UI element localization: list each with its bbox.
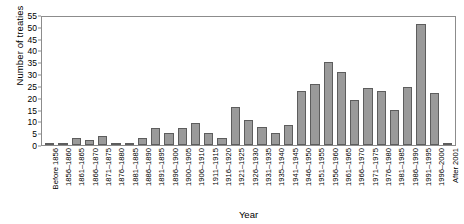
- plot-area: [41, 16, 456, 146]
- bar-slot: [229, 17, 242, 145]
- bar-slot: [388, 17, 401, 145]
- x-axis-tick-slot: 1935–1940: [269, 148, 282, 210]
- bar: [217, 138, 226, 145]
- x-axis-tick-slot: 1891–1895: [149, 148, 162, 210]
- y-axis-tick-label: 25: [28, 83, 37, 92]
- bar: [284, 125, 293, 145]
- bar: [430, 93, 439, 145]
- y-axis-tick-label: 45: [28, 35, 37, 44]
- bar-slot: [335, 17, 348, 145]
- x-axis-ticks: Before 18561856–18601861–18651866–187018…: [41, 148, 456, 210]
- bar-slot: [322, 17, 335, 145]
- y-axis-ticks: 0510152025303540455055: [0, 0, 41, 147]
- bar: [178, 128, 187, 145]
- bar: [257, 127, 266, 145]
- x-axis-tick-slot: After 2001: [442, 148, 455, 210]
- bar: [416, 24, 425, 145]
- y-axis-tick-label: 40: [28, 47, 37, 56]
- bar: [85, 140, 94, 145]
- bar-slot: [255, 17, 268, 145]
- bar-slot: [70, 17, 83, 145]
- bar: [271, 133, 280, 145]
- bar: [138, 138, 147, 145]
- bar-slot: [189, 17, 202, 145]
- y-axis-tick-label: 35: [28, 59, 37, 68]
- bar-slot: [282, 17, 295, 145]
- x-axis-tick-slot: 1900–1905: [175, 148, 188, 210]
- y-axis-tick-label: 0: [32, 142, 37, 151]
- x-axis-tick-slot: 1871–1875: [95, 148, 108, 210]
- bar-slot: [83, 17, 96, 145]
- bar: [324, 62, 333, 145]
- bar-slot: [308, 17, 321, 145]
- x-axis-tick-slot: 1976–1980: [375, 148, 388, 210]
- bar: [390, 110, 399, 145]
- x-axis-tick-slot: 1951–1955: [309, 148, 322, 210]
- bar-slot: [428, 17, 441, 145]
- bar: [377, 91, 386, 145]
- x-axis-tick-slot: 1906–1910: [189, 148, 202, 210]
- x-axis-tick-slot: 1911–1915: [202, 148, 215, 210]
- x-axis-tick-slot: 1886–1890: [135, 148, 148, 210]
- bar-slot: [348, 17, 361, 145]
- x-axis-tick-slot: 1876–1880: [109, 148, 122, 210]
- bar: [191, 123, 200, 145]
- bar: [297, 91, 306, 145]
- bar-slot: [136, 17, 149, 145]
- x-axis-title: Year: [41, 209, 456, 220]
- x-axis-tick-slot: 1971–1975: [362, 148, 375, 210]
- bar-slot: [56, 17, 69, 145]
- bar: [58, 143, 67, 145]
- y-axis-tick-label: 30: [28, 71, 37, 80]
- bar: [204, 133, 213, 145]
- bar: [151, 128, 160, 145]
- x-axis-tick-slot: 1941–1945: [282, 148, 295, 210]
- bar-slot: [202, 17, 215, 145]
- bar-slot: [176, 17, 189, 145]
- bar: [164, 133, 173, 145]
- bar: [111, 143, 120, 145]
- bar: [363, 88, 372, 145]
- bar-slot: [123, 17, 136, 145]
- x-axis-tick-slot: 1856–1860: [55, 148, 68, 210]
- bar-slot: [361, 17, 374, 145]
- bar: [125, 143, 134, 145]
- x-axis-tick-label: After 2001: [452, 148, 460, 183]
- x-axis-tick-slot: 1996–2000: [429, 148, 442, 210]
- x-axis-tick-slot: 1966–1970: [349, 148, 362, 210]
- y-axis-tick-label: 20: [28, 94, 37, 103]
- x-axis-tick-slot: 1956–1960: [322, 148, 335, 210]
- bar: [72, 138, 81, 145]
- bar-slot: [43, 17, 56, 145]
- x-axis-tick-slot: 1921–1925: [229, 148, 242, 210]
- bar-slot: [149, 17, 162, 145]
- bar: [443, 143, 452, 145]
- bar: [231, 107, 240, 145]
- x-axis-tick-slot: 1926–1930: [242, 148, 255, 210]
- y-axis-tick-label: 10: [28, 118, 37, 127]
- x-axis-tick-slot: 1961–1965: [335, 148, 348, 210]
- bar-slot: [269, 17, 282, 145]
- bar: [310, 84, 319, 145]
- bar-series: [42, 17, 455, 145]
- bar-slot: [441, 17, 454, 145]
- y-axis-tick-label: 15: [28, 106, 37, 115]
- x-axis-tick-slot: 1916–1920: [215, 148, 228, 210]
- x-axis-tick-slot: 1896–1900: [162, 148, 175, 210]
- y-axis-tick-label: 50: [28, 24, 37, 33]
- bar: [403, 87, 412, 145]
- x-axis-tick-slot: 1946–1950: [295, 148, 308, 210]
- bar-slot: [242, 17, 255, 145]
- bar-chart: Number of treaties 051015202530354045505…: [0, 0, 464, 224]
- bar-slot: [295, 17, 308, 145]
- bar-slot: [96, 17, 109, 145]
- bar-slot: [215, 17, 228, 145]
- bar: [337, 72, 346, 145]
- bar: [45, 143, 54, 145]
- x-axis-tick-slot: Before 1856: [42, 148, 55, 210]
- x-axis-tick-slot: 1931–1935: [255, 148, 268, 210]
- x-axis-tick-slot: 1986–1990: [402, 148, 415, 210]
- bar-slot: [162, 17, 175, 145]
- x-axis-tick-slot: 1881–1885: [122, 148, 135, 210]
- x-axis-tick-slot: 1866–1870: [82, 148, 95, 210]
